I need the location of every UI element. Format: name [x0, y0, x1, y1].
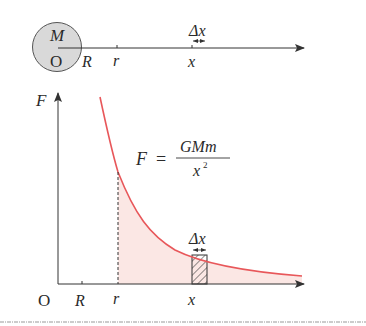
formula-equals: = [156, 149, 166, 169]
formula-lhs: F [135, 149, 148, 169]
r-label-top: r [113, 52, 120, 69]
formula-denominator: x [192, 162, 200, 179]
gravity-work-diagram: M O R r x Δx F O R r x Δx F = GMm [0, 0, 366, 326]
work-area-shade [118, 172, 302, 284]
origin-label-top: O [50, 52, 62, 71]
origin-label-graph: O [38, 291, 50, 310]
x-tick-label: x [187, 291, 195, 308]
force-graph: F O R r x Δx F = GMm x 2 [35, 91, 304, 310]
R-tick-label: R [74, 292, 85, 309]
formula-numerator: GMm [180, 138, 216, 155]
radius-label-top: R [81, 53, 92, 70]
force-formula: F = GMm x 2 [135, 138, 230, 179]
y-axis-label: F [35, 91, 47, 110]
x-label-top: x [187, 53, 195, 70]
r-tick-label: r [113, 290, 120, 307]
dx-label-graph: Δx [188, 230, 206, 247]
top-figure: M O R r x Δx [33, 22, 305, 72]
formula-exponent: 2 [203, 160, 208, 170]
mass-label: M [49, 26, 65, 45]
dx-label-top: Δx [188, 22, 206, 39]
